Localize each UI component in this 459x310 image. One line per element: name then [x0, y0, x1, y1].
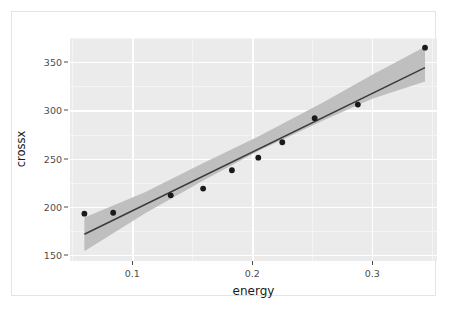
x-axis-tickmark	[252, 261, 253, 265]
y-axis-tickmark	[64, 206, 68, 207]
data-layer	[70, 38, 437, 261]
confidence-band	[84, 47, 425, 252]
data-point	[255, 155, 261, 161]
data-point	[312, 115, 318, 121]
data-point	[422, 45, 428, 51]
figure-canvas: 150200250300350 0.10.20.3 crossx energy	[0, 0, 459, 310]
data-point	[168, 192, 174, 198]
x-axis-tick-label: 0.2	[245, 268, 260, 279]
x-axis-tickmark	[372, 261, 373, 265]
plot-panel	[70, 38, 437, 261]
data-point	[81, 211, 87, 217]
data-point	[355, 102, 361, 108]
data-point	[200, 186, 206, 192]
y-axis-tick-label: 200	[44, 201, 62, 212]
y-axis-tickmark	[64, 158, 68, 159]
y-axis-tick-label: 250	[44, 153, 62, 164]
scatter-plot-svg	[70, 38, 437, 261]
data-point	[279, 139, 285, 145]
data-point	[229, 167, 235, 173]
x-axis-tick-label: 0.1	[125, 268, 140, 279]
x-axis-tick-label: 0.3	[365, 268, 380, 279]
figure-frame: 150200250300350 0.10.20.3 crossx energy	[11, 11, 436, 296]
y-axis-tick-label: 350	[44, 57, 62, 68]
x-axis-title: energy	[70, 284, 437, 298]
y-axis-tick-label: 150	[44, 250, 62, 261]
y-axis-title: crossx	[14, 131, 28, 168]
y-axis-tickmark	[64, 110, 68, 111]
x-axis-tickmark	[132, 261, 133, 265]
regression-line	[84, 68, 425, 235]
data-point	[110, 210, 116, 216]
x-axis-tick-labels: 0.10.20.3	[70, 261, 437, 285]
y-axis-tick-label: 300	[44, 105, 62, 116]
y-axis-tickmark	[64, 255, 68, 256]
y-axis-tickmark	[64, 62, 68, 63]
